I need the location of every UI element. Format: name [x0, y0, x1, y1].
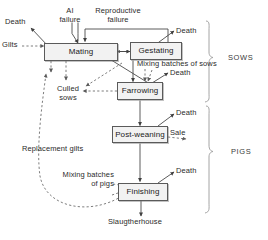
- node-post-weaning[interactable]: Post-weaning: [112, 126, 168, 143]
- node-finishing[interactable]: Finishing: [118, 183, 168, 201]
- label-death-finishing: Death: [176, 167, 197, 176]
- group-label-sows: SOWS: [228, 53, 253, 62]
- label-replacement-gilts: Replacement gilts: [22, 145, 83, 154]
- group-brackets: [205, 21, 213, 213]
- label-culled-sows-line2: sows: [52, 94, 84, 103]
- node-gestating-label: Gestating: [138, 47, 173, 55]
- label-ai-failure-line2: failure: [55, 16, 85, 25]
- label-death-mating: Death: [5, 18, 26, 27]
- label-death-farrowing: Death: [170, 69, 191, 78]
- node-farrowing[interactable]: Farrowing: [117, 82, 163, 100]
- diagram-connectors: [0, 0, 268, 240]
- node-mating-label: Mating: [69, 48, 94, 56]
- label-mixing-batches-of-pigs: Mixing batches of pigs: [62, 171, 114, 188]
- label-slaughterhouse: Slaugtherhouse: [108, 218, 162, 227]
- node-finishing-label: Finishing: [127, 188, 160, 196]
- label-death-post-weaning: Death: [176, 109, 197, 118]
- label-death-gestating: Death: [176, 27, 197, 36]
- label-reproductive-failure: Reproductive failure: [91, 7, 145, 24]
- node-mating[interactable]: Mating: [44, 43, 118, 61]
- group-label-pigs: PIGS: [231, 147, 251, 156]
- label-ai-failure: AI failure: [55, 7, 85, 24]
- node-post-weaning-label: Post-weaning: [115, 131, 165, 139]
- label-culled-sows: Culled sows: [52, 85, 84, 102]
- label-sale: Sale: [170, 129, 185, 138]
- diagram-canvas: Mating Gestating Farrowing Post-weaning …: [0, 0, 268, 240]
- node-gestating[interactable]: Gestating: [130, 42, 182, 60]
- label-mixing-batches-of-pigs-line2: of pigs: [62, 180, 114, 189]
- label-reproductive-failure-line2: failure: [91, 16, 145, 25]
- label-gilts: Gilts: [2, 41, 18, 50]
- node-farrowing-label: Farrowing: [122, 87, 158, 95]
